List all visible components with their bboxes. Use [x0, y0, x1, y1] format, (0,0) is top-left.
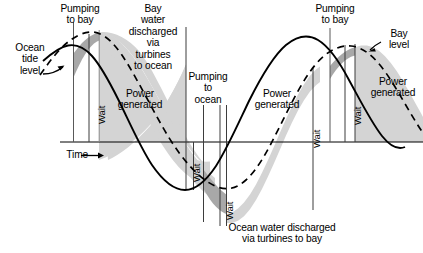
label-power-generated-3: Power generated — [362, 76, 423, 99]
label-power-generated-1: Power generated — [103, 88, 177, 111]
label-pumping-to-bay-2: Pumping to bay — [295, 3, 375, 26]
label-pumping-to-ocean: Pumping to ocean — [174, 71, 242, 105]
label-bay-water-discharged: Bay water discharged via turbines to oce… — [112, 3, 194, 71]
label-bay-level: Bay level — [378, 28, 420, 51]
tidal-power-diagram: Ocean tide level Pumping to bay Bay wate… — [0, 0, 423, 253]
label-pumping-to-bay-1: Pumping to bay — [40, 3, 120, 26]
label-time-axis: Time — [52, 149, 88, 160]
label-wait-3: Wait — [225, 202, 235, 220]
label-ocean-tide-level: Ocean tide level — [4, 42, 56, 76]
label-wait-1: Wait — [97, 106, 107, 124]
label-ocean-water-discharged: Ocean water discharged via turbines to b… — [202, 222, 362, 245]
dark-region-3 — [330, 47, 355, 79]
dark-region-1 — [74, 33, 100, 78]
label-wait-4: Wait — [312, 130, 322, 148]
label-wait-5: Wait — [353, 107, 363, 125]
tidal-cycle-chart — [0, 0, 423, 253]
label-wait-2: Wait — [192, 164, 202, 182]
label-power-generated-2: Power generated — [240, 88, 314, 111]
